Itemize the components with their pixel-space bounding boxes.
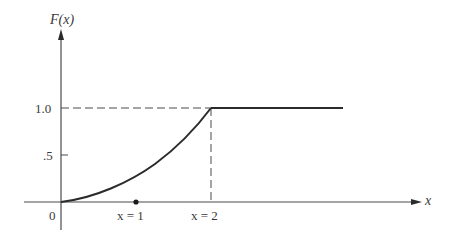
x-tick-label-2: x = 2	[191, 209, 218, 222]
y-tick-label-05: .5	[43, 149, 53, 162]
cdf-curve	[61, 108, 211, 202]
x-axis-arrow-icon	[411, 199, 422, 205]
x-tick-label-1: x = 1	[117, 209, 144, 222]
y-axis-arrow-icon	[58, 29, 64, 40]
cdf-chart	[0, 0, 457, 239]
x1-dot-marker	[133, 199, 138, 204]
y-axis-label: F(x)	[50, 13, 74, 27]
y-tick-label-1: 1.0	[35, 102, 51, 115]
x-axis-label: x	[425, 194, 431, 208]
origin-label: 0	[49, 209, 56, 222]
